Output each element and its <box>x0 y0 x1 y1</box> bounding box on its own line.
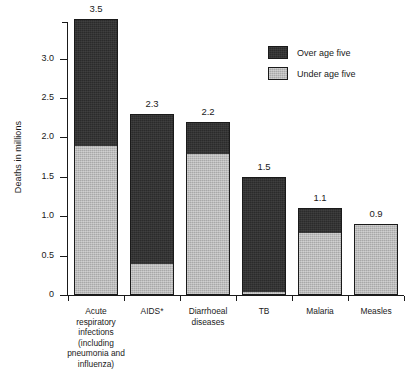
bar-value-label: 0.9 <box>351 209 401 219</box>
bar <box>74 19 118 295</box>
y-axis-tick-label: 0 <box>20 290 54 299</box>
bar-value-label: 2.2 <box>183 107 233 117</box>
bar-segment-over-age-five <box>75 20 117 146</box>
x-axis-tick <box>404 296 405 301</box>
x-axis-tick <box>348 296 349 301</box>
legend-swatch-over <box>268 46 288 59</box>
bar-value-label: 3.5 <box>71 4 121 14</box>
legend-item: Over age five <box>268 42 356 63</box>
legend-swatch-under <box>268 67 288 80</box>
bar-value-label: 1.5 <box>239 162 289 172</box>
bar-value-label: 2.3 <box>127 99 177 109</box>
x-axis-tick <box>292 296 293 301</box>
bar <box>130 114 174 295</box>
y-axis-tick <box>60 137 68 138</box>
bar <box>242 177 286 295</box>
bar-segment-under-age-five <box>299 233 341 295</box>
y-axis-tick-label: 1.0 <box>20 211 54 220</box>
bar-segment-under-age-five <box>131 264 173 295</box>
x-axis-tick <box>180 296 181 301</box>
bar-segment-over-age-five <box>299 209 341 233</box>
bar <box>354 224 398 295</box>
y-axis-tick <box>60 59 68 60</box>
y-axis-tick <box>60 98 68 99</box>
bar-segment-over-age-five <box>243 178 285 292</box>
bar-segment-under-age-five <box>355 225 397 295</box>
legend-label: Under age five <box>297 69 356 79</box>
x-axis-tick <box>124 296 125 301</box>
y-axis-tick-label: 0.5 <box>20 251 54 260</box>
y-axis-tick <box>60 177 68 178</box>
bar-segment-over-age-five <box>187 123 229 155</box>
y-axis-tick <box>60 216 68 217</box>
bar <box>186 122 230 295</box>
bar <box>298 208 342 295</box>
y-axis-tick-label: 2.5 <box>20 93 54 102</box>
legend-label: Over age five <box>297 48 351 58</box>
y-axis-tick <box>60 256 68 257</box>
x-axis-label: Measles <box>341 306 411 317</box>
x-axis-tick <box>68 296 69 301</box>
bar-segment-under-age-five <box>75 146 117 295</box>
stacked-bar-chart: Deaths in millions 00.51.01.52.02.53.0 3… <box>0 0 412 381</box>
y-axis-tick-label: 3.0 <box>20 54 54 63</box>
bar-segment-over-age-five <box>131 115 173 265</box>
x-axis-tick <box>236 296 237 301</box>
y-axis-title: Deaths in millions <box>13 57 23 257</box>
legend-item: Under age five <box>268 63 356 84</box>
bar-value-label: 1.1 <box>295 193 345 203</box>
y-axis-tick-label: 2.0 <box>20 132 54 141</box>
y-axis-tick-label: 1.5 <box>20 172 54 181</box>
bar-segment-under-age-five <box>243 292 285 295</box>
legend: Over age fiveUnder age five <box>268 42 356 84</box>
bar-segment-under-age-five <box>187 154 229 295</box>
